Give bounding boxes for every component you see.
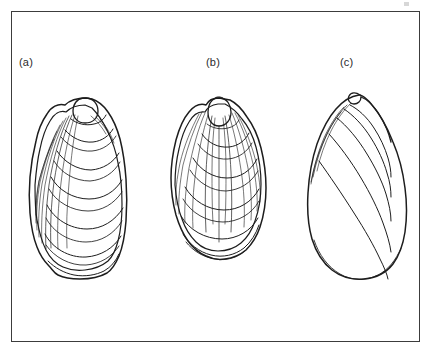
panel-c: (c) [302, 12, 421, 341]
panel-a-label: (a) [19, 57, 33, 68]
shell-drawing-c [304, 85, 408, 285]
panel-c-label: (c) [340, 57, 353, 68]
panel-b: (b) [162, 12, 302, 341]
panel-row: (a) [12, 12, 419, 341]
panel-b-label: (b) [206, 57, 220, 68]
scan-artifact-speck [404, 2, 409, 6]
figure-frame-border: (a) [11, 11, 420, 342]
figure-root: (a) [0, 0, 432, 353]
shell-drawing-b [167, 92, 271, 270]
shell-drawing-a [24, 85, 136, 283]
panel-a: (a) [12, 12, 162, 341]
